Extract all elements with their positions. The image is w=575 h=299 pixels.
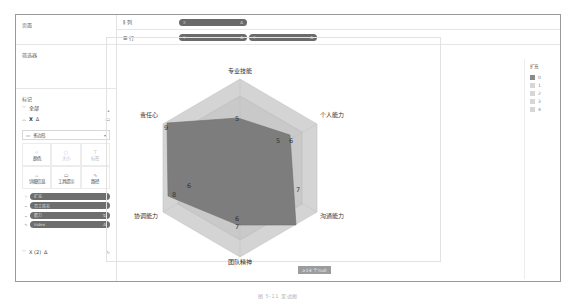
null-badge-text: ≥14 个 null xyxy=(302,267,327,273)
value-label: 6 xyxy=(187,182,191,190)
null-indicator-badge[interactable]: ≥14 个 null xyxy=(298,266,331,274)
axis-label-responsibility: 责任心 xyxy=(140,111,158,119)
radar-chart: 专业技能 个人能力 沟通能力 团队精神 协调能力 责任心 5 5 6 7 6 7… xyxy=(0,0,575,299)
value-label: 6 xyxy=(235,215,239,223)
axis-label-coordination: 协调能力 xyxy=(134,212,158,220)
axis-label-personal-ability: 个人能力 xyxy=(320,111,344,119)
axis-label-communication: 沟通能力 xyxy=(320,212,344,220)
value-label: 8 xyxy=(172,191,176,199)
figure-caption: 图 5-11 雷达图 xyxy=(258,292,298,299)
value-label: 5 xyxy=(235,115,239,123)
value-label: 7 xyxy=(235,223,239,231)
value-label: 6 xyxy=(289,137,293,145)
value-label: 7 xyxy=(296,186,300,194)
axis-label-teamwork: 团队精神 xyxy=(228,258,252,266)
value-label: 5 xyxy=(276,137,280,145)
axis-label-professional-skill: 专业技能 xyxy=(228,67,252,75)
value-label: 9 xyxy=(164,124,168,132)
